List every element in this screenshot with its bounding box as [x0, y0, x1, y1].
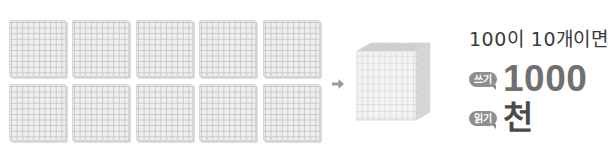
read-value: 천 [503, 98, 533, 138]
thousand-cube [356, 42, 432, 122]
explanation-panel: 100이 10개이면 쓰기 1000 읽기 천 [469, 27, 616, 147]
hundred-flat [136, 84, 193, 141]
arrow-right-icon [331, 76, 345, 90]
hundred-flat [72, 84, 129, 141]
hundred-flat [9, 84, 66, 141]
hundred-flat [72, 20, 129, 77]
hundred-flat [263, 84, 320, 141]
read-row: 읽기 천 [469, 98, 533, 138]
write-row: 쓰기 1000 [469, 61, 587, 97]
statement-text: 100이 10개이면 [469, 27, 608, 51]
hundred-flats-group [9, 20, 321, 143]
hundred-flat [9, 20, 66, 77]
hundred-flat [199, 20, 256, 77]
write-value: 1000 [503, 61, 587, 97]
hundred-flat [263, 20, 320, 77]
read-badge: 읽기 [469, 111, 497, 126]
hundred-flat [199, 84, 256, 141]
write-badge: 쓰기 [469, 72, 497, 87]
hundred-flat [136, 20, 193, 77]
